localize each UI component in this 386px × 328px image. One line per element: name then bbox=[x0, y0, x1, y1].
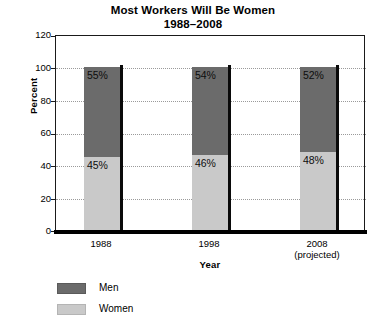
legend-swatch-women-icon bbox=[57, 304, 86, 315]
y-tick-label-20: 20 bbox=[11, 194, 51, 204]
y-tick-label-60: 60 bbox=[11, 128, 51, 138]
y-tick-label-100: 100 bbox=[11, 63, 51, 73]
x-tick-label-1988: 1988 bbox=[56, 238, 146, 249]
y-tick-mark-100 bbox=[51, 68, 56, 69]
bar-label-women-1988: 45% bbox=[87, 159, 108, 171]
y-tick-label-0: 0 bbox=[11, 226, 51, 236]
bar-label-men-1998: 54% bbox=[195, 69, 216, 81]
y-tick-mark-80 bbox=[51, 101, 56, 102]
bar-shadow-2008 bbox=[336, 65, 339, 231]
bar-segment-women-2008[interactable]: 48% bbox=[300, 152, 336, 231]
x-tick-label-1988-text: 1988 bbox=[90, 238, 111, 249]
x-tick-label-1998: 1998 bbox=[164, 238, 254, 249]
bar-segment-men-1998[interactable]: 54% bbox=[192, 67, 228, 156]
chart-title: Most Workers Will Be Women 1988–2008 bbox=[0, 3, 386, 31]
legend-swatch-men-icon bbox=[57, 283, 86, 294]
y-axis-title: Percent bbox=[28, 78, 39, 114]
bar-shadow-1988 bbox=[120, 65, 123, 231]
legend-label-women: Women bbox=[99, 302, 133, 316]
chart-title-line1: Most Workers Will Be Women bbox=[111, 4, 275, 16]
y-tick-mark-20 bbox=[51, 199, 56, 200]
bar-label-men-1988: 55% bbox=[87, 69, 108, 81]
y-tick-mark-40 bbox=[51, 166, 56, 167]
bar-segment-men-2008[interactable]: 52% bbox=[300, 67, 336, 152]
bar-segment-men-1988[interactable]: 55% bbox=[84, 67, 120, 157]
plot-area: Percent 55% 45% 54% 46% 52% bbox=[55, 35, 365, 232]
x-tick-sublabel-2008: (projected) bbox=[272, 249, 362, 260]
chart-title-line2: 1988–2008 bbox=[0, 17, 386, 31]
bar-segment-women-1988[interactable]: 45% bbox=[84, 157, 120, 231]
x-tick-label-2008: 2008 (projected) bbox=[272, 238, 362, 260]
y-tick-mark-60 bbox=[51, 134, 56, 135]
bar-segment-women-1998[interactable]: 46% bbox=[192, 155, 228, 231]
bar-shadow-1998 bbox=[228, 65, 231, 231]
x-tick-label-1998-text: 1998 bbox=[198, 238, 219, 249]
y-tick-mark-120 bbox=[51, 36, 56, 37]
x-axis-title: Year bbox=[165, 259, 255, 270]
x-tick-label-2008-text: 2008 bbox=[306, 238, 327, 249]
bar-label-men-2008: 52% bbox=[303, 69, 324, 81]
legend-label-men: Men bbox=[99, 281, 118, 295]
bar-label-women-2008: 48% bbox=[303, 154, 324, 166]
x-axis-baseline bbox=[54, 230, 367, 234]
bar-label-women-1998: 46% bbox=[195, 157, 216, 169]
y-tick-label-40: 40 bbox=[11, 161, 51, 171]
y-tick-label-120: 120 bbox=[11, 30, 51, 40]
